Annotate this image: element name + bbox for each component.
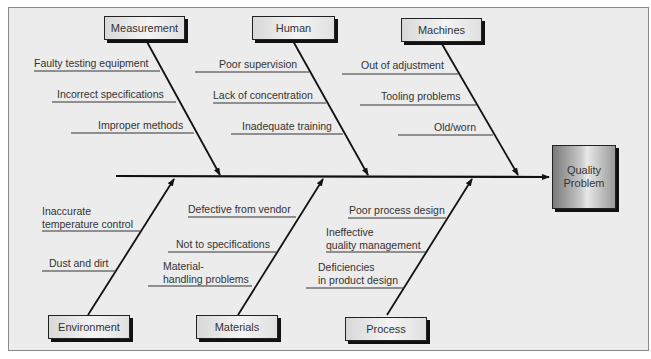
cause-line1: Ineffective	[326, 226, 421, 239]
category-measurement: Measurement	[104, 16, 185, 40]
cause-lack-of-concentration: Lack of concentration	[213, 89, 313, 102]
cause-faulty-testing-equipment: Faulty testing equipment	[34, 57, 148, 70]
cause-line1: Deficiencies	[318, 261, 398, 274]
cause-line2: handling problems	[163, 273, 249, 286]
cause-line2: quality management	[326, 239, 421, 252]
category-environment: Environment	[48, 315, 130, 339]
cause-old-worn: Old/worn	[434, 121, 476, 134]
category-human: Human	[252, 16, 335, 40]
cause-material-handling-problems: Material- handling problems	[163, 260, 249, 286]
cause-out-of-adjustment: Out of adjustment	[361, 59, 444, 72]
cause-poor-process-design: Poor process design	[349, 204, 445, 217]
cause-line2: in product design	[318, 274, 398, 287]
cause-line1: Inaccurate	[42, 205, 133, 218]
cause-inadequate-training: Inadequate training	[242, 120, 332, 133]
category-machines: Machines	[401, 18, 482, 42]
effect-quality-problem: Quality Problem	[552, 145, 616, 209]
cause-improper-methods: Improper methods	[98, 119, 183, 132]
cause-ineffective-quality-management: Ineffective quality management	[326, 226, 421, 252]
cause-defective-from-vendor: Defective from vendor	[188, 203, 291, 216]
cause-line2: temperature control	[42, 218, 133, 231]
effect-label-line2: Problem	[564, 177, 605, 190]
category-process: Process	[345, 317, 427, 341]
category-materials: Materials	[196, 315, 278, 339]
cause-incorrect-specifications: Incorrect specifications	[57, 88, 164, 101]
effect-label-line1: Quality	[567, 164, 601, 177]
cause-not-to-specifications: Not to specifications	[176, 238, 270, 251]
cause-tooling-problems: Tooling problems	[381, 90, 460, 103]
cause-dust-and-dirt: Dust and dirt	[49, 257, 109, 270]
cause-poor-supervision: Poor supervision	[219, 58, 297, 71]
cause-line1: Material-	[163, 260, 249, 273]
cause-deficiencies-in-product-design: Deficiencies in product design	[318, 261, 398, 287]
cause-inaccurate-temperature-control: Inaccurate temperature control	[42, 205, 133, 231]
